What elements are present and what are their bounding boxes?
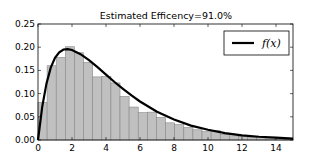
histogram-bar	[138, 113, 147, 140]
y-tick-label: 0.00	[15, 135, 35, 145]
y-tick-label: 0.25	[15, 19, 35, 29]
x-tick-label: 4	[103, 143, 109, 153]
x-tick-label: 10	[202, 143, 214, 153]
histogram-bar	[202, 132, 211, 140]
histogram-bars	[38, 47, 293, 140]
histogram-bar	[220, 134, 229, 140]
histogram-bar	[102, 76, 111, 140]
histogram-bar	[147, 112, 156, 140]
histogram-bar	[175, 125, 184, 140]
histogram-bar	[129, 107, 138, 140]
histogram-bar	[93, 77, 102, 140]
histogram-bar	[56, 57, 65, 140]
histogram-bar	[156, 117, 165, 140]
histogram-bar	[65, 47, 74, 140]
y-tick-label: 0.05	[15, 112, 35, 122]
histogram-bar	[84, 63, 93, 140]
x-tick-label: 8	[171, 143, 177, 153]
chart-title: Estimated Efficency=91.0%	[100, 10, 232, 21]
legend: f(x)	[224, 31, 289, 55]
histogram-bar	[229, 136, 238, 140]
legend-label: f(x)	[261, 37, 281, 50]
chart: Estimated Efficency=91.0% 02468101214 0.…	[0, 0, 310, 159]
histogram-bar	[74, 53, 83, 140]
x-tick-label: 2	[69, 143, 75, 153]
y-tick-label: 0.15	[15, 65, 35, 75]
y-tick-label: 0.20	[15, 42, 35, 52]
y-tick-label: 0.10	[15, 89, 35, 99]
x-tick-label: 0	[35, 143, 41, 153]
histogram-bar	[193, 130, 202, 140]
histogram-bar	[166, 123, 175, 140]
x-tick-label: 12	[236, 143, 247, 153]
histogram-bar	[184, 127, 193, 140]
x-tick-label: 14	[270, 143, 282, 153]
histogram-bar	[120, 96, 129, 140]
histogram-bar	[111, 83, 120, 140]
histogram-bar	[248, 137, 257, 140]
histogram-bar	[238, 136, 247, 140]
x-tick-label: 6	[137, 143, 143, 153]
